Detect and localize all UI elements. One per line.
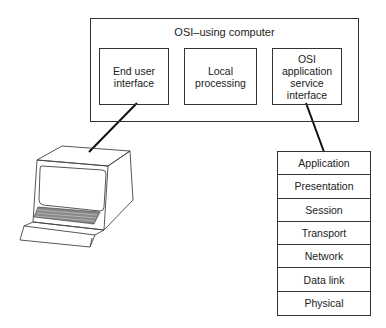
layer-physical: Physical xyxy=(278,292,370,315)
local-processing-box: Local processing xyxy=(184,48,257,105)
computer-terminal-icon xyxy=(20,146,133,247)
computer-title: OSI–using computer xyxy=(90,26,359,38)
end-user-interface-box: End user interface xyxy=(99,48,169,105)
osi-application-service-interface-box: OSI application service interface xyxy=(272,48,342,105)
layer-transport: Transport xyxy=(278,222,370,245)
layer-application: Application xyxy=(278,152,370,175)
layer-presentation: Presentation xyxy=(278,175,370,198)
layer-network: Network xyxy=(278,245,370,268)
layer-data-link: Data link xyxy=(278,268,370,291)
osi-layer-stack: Application Presentation Session Transpo… xyxy=(277,151,371,316)
layer-session: Session xyxy=(278,199,370,222)
